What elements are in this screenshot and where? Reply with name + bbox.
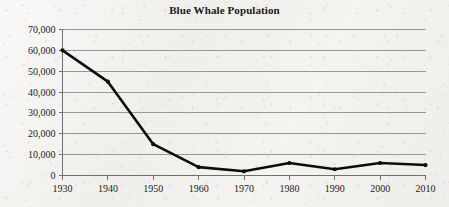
y-axis-tick-label: 70,000: [28, 24, 56, 35]
x-axis-tick-label: 1980: [279, 183, 299, 194]
y-axis-tick-label: 0: [51, 170, 56, 181]
x-axis-tick-label: 1940: [98, 183, 118, 194]
x-axis-tick-label: 1990: [325, 183, 345, 194]
y-axis-tick-label: 30,000: [28, 107, 56, 118]
y-axis-tick-label: 40,000: [28, 87, 56, 98]
x-axis-tick-label: 1970: [234, 183, 254, 194]
y-axis-tick-label: 20,000: [28, 128, 56, 139]
x-axis-tick-label: 1950: [143, 183, 163, 194]
x-axis-tick-label: 1960: [189, 183, 209, 194]
line-chart-plot: 010,00020,00030,00040,00050,00060,00070,…: [0, 0, 449, 207]
y-axis-labels-group: 010,00020,00030,00040,00050,00060,00070,…: [28, 24, 56, 181]
chart-figure: Blue Whale Population 010,00020,00030,00…: [0, 0, 449, 207]
data-series-line: [63, 50, 426, 171]
data-point-marker: [60, 48, 64, 52]
data-point-marker: [106, 80, 110, 84]
x-axis-tick-label: 1930: [53, 183, 73, 194]
x-axis-tick-label: 2000: [370, 183, 390, 194]
y-axis-tick-label: 50,000: [28, 66, 56, 77]
y-axis-tick-label: 60,000: [28, 45, 56, 56]
data-point-marker: [287, 161, 291, 165]
data-point-marker: [423, 163, 427, 167]
x-axis-ticks-group: [63, 176, 426, 180]
data-point-marker: [151, 142, 155, 146]
data-point-marker: [242, 169, 246, 173]
data-point-marker: [333, 167, 337, 171]
x-axis-tick-label: 2010: [416, 183, 436, 194]
data-point-marker: [197, 165, 201, 169]
y-axis-tick-label: 10,000: [28, 149, 56, 160]
data-point-marker: [378, 161, 382, 165]
x-axis-labels-group: 193019401950196019701980199020002010: [53, 183, 436, 194]
